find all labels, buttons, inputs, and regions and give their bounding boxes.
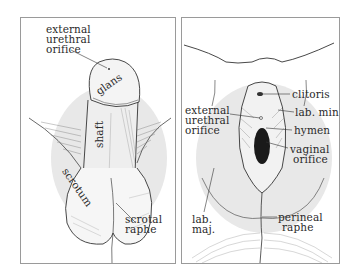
label-external-urethral-orifice-male: external urethral orifice [46, 24, 91, 54]
label-vaginal-orifice: vaginal orifice [290, 144, 329, 164]
label-clitoris: clitoris [292, 89, 330, 99]
female-anatomy-panel: clitoris external urethral orifice lab. … [181, 17, 340, 264]
label-shaft: shaft [94, 121, 104, 148]
label-labia-minora: lab. min. [295, 107, 340, 117]
label-external-urethral-orifice-female: external urethral orifice [185, 105, 230, 135]
label-scrotal-raphe: scrotal raphe [125, 214, 162, 234]
label-labia-majora: lab. maj. [192, 214, 215, 234]
male-anatomy-panel: external urethral orifice glans shaft sc… [20, 17, 176, 264]
label-hymen: hymen [294, 125, 330, 135]
label-perineal-raphe: perineal raphe [278, 212, 323, 232]
